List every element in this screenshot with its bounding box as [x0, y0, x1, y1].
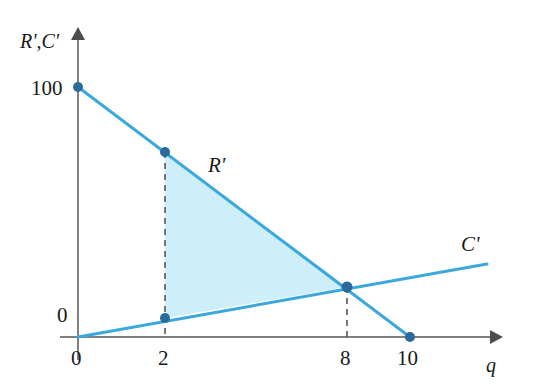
y-axis-title: R',C' — [19, 30, 60, 52]
point-r-intercept — [73, 82, 83, 92]
point-r-zero — [405, 332, 415, 342]
point-r-at-q2 — [160, 147, 170, 157]
chart-container: R',C' q R' C' 100 0 0 2 8 10 — [0, 0, 533, 385]
marginal-revenue-cost-chart: R',C' q R' C' 100 0 0 2 8 10 — [0, 0, 533, 385]
point-equilibrium — [342, 282, 353, 293]
y-tick-label-0: 0 — [57, 303, 68, 327]
y-tick-label-100: 100 — [31, 76, 63, 100]
x-axis-title: q — [486, 354, 496, 377]
x-tick-label-2: 2 — [158, 346, 169, 370]
point-c-at-q2 — [160, 313, 170, 323]
x-tick-label-10: 10 — [397, 346, 418, 370]
x-axis-arrow-icon — [490, 330, 503, 344]
curve-label-marginal-cost: C' — [461, 232, 480, 256]
y-axis-arrow-icon — [71, 27, 85, 40]
curve-label-marginal-revenue: R' — [207, 153, 226, 177]
x-tick-label-8: 8 — [340, 346, 351, 370]
x-tick-label-0: 0 — [71, 346, 82, 370]
